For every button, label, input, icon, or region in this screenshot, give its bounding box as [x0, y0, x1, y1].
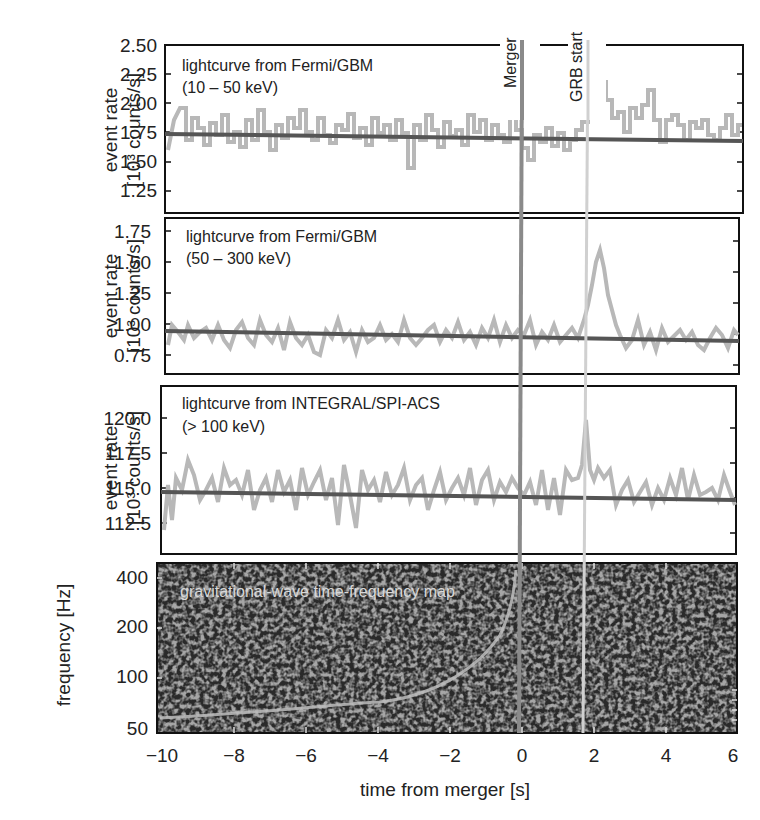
panel-spi-acs: 120.0 117.5 115.0 112.5 lightcurve from …	[103, 386, 736, 554]
annotation-panel-3-line2: (> 100 keV)	[182, 418, 265, 435]
svg-text:112.5: 112.5	[105, 513, 151, 534]
svg-text:1.75: 1.75	[114, 221, 151, 242]
svg-text:1.75: 1.75	[120, 122, 157, 143]
x-axis-label: time from merger [s]	[360, 779, 530, 800]
yticks-panel-4: 400 200 100 50	[116, 567, 148, 739]
svg-text:−10: −10	[146, 745, 178, 766]
svg-text:1.50: 1.50	[114, 252, 151, 273]
annotation-panel-2-line2: (50 – 300 keV)	[186, 250, 291, 267]
svg-text:−6: −6	[295, 745, 317, 766]
grb-start-label: GRB start	[568, 31, 585, 102]
svg-text:1.50: 1.50	[120, 151, 157, 172]
svg-text:1.25: 1.25	[114, 283, 151, 304]
svg-text:1.25: 1.25	[120, 180, 157, 201]
svg-text:1.00: 1.00	[114, 314, 151, 335]
svg-text:2.00: 2.00	[120, 93, 157, 114]
svg-text:−4: −4	[367, 745, 389, 766]
merger-label: Merger	[502, 37, 519, 88]
svg-text:120.0: 120.0	[103, 408, 151, 429]
svg-text:−2: −2	[439, 745, 461, 766]
panel-gw-map: 400 200 100 50 gravitational-wave time-f…	[116, 563, 737, 739]
annotation-panel-4: gravitational-wave time-frequency map	[180, 583, 455, 600]
figure: event rate [10³ counts/s] event rate [10…	[0, 0, 760, 820]
ylabel-panel-4: frequency [Hz]	[53, 584, 74, 707]
svg-text:event rate: event rate	[100, 88, 121, 173]
svg-text:−8: −8	[223, 745, 245, 766]
svg-text:0: 0	[517, 745, 528, 766]
svg-text:117.5: 117.5	[105, 443, 151, 464]
svg-text:400: 400	[116, 567, 148, 588]
svg-text:2.50: 2.50	[120, 35, 157, 56]
annotation-panel-1-line1: lightcurve from Fermi/GBM	[182, 57, 373, 74]
svg-text:4: 4	[661, 745, 672, 766]
svg-text:2.25: 2.25	[120, 64, 157, 85]
svg-text:frequency [Hz]: frequency [Hz]	[53, 584, 74, 707]
annotation-panel-1-line2: (10 – 50 keV)	[182, 79, 278, 96]
panel-gbm-high: 1.75 1.50 1.25 1.00 0.75 lightcurve from…	[114, 218, 739, 374]
svg-text:100: 100	[116, 666, 148, 687]
x-axis: −10 −8 −6 −4 −2 0 2 4 6 time from merger…	[146, 745, 738, 800]
svg-text:115.0: 115.0	[105, 478, 151, 499]
svg-text:2: 2	[589, 745, 600, 766]
annotation-panel-2-line1: lightcurve from Fermi/GBM	[186, 228, 377, 245]
svg-text:200: 200	[116, 616, 148, 637]
svg-text:6: 6	[728, 745, 739, 766]
svg-text:50: 50	[127, 718, 148, 739]
svg-text:0.75: 0.75	[114, 345, 151, 366]
annotation-panel-3-line1: lightcurve from INTEGRAL/SPI-ACS	[182, 395, 440, 412]
panel-gbm-low: 2.50 2.25 2.00 1.75 1.50 1.25 lightcurve…	[120, 35, 743, 213]
